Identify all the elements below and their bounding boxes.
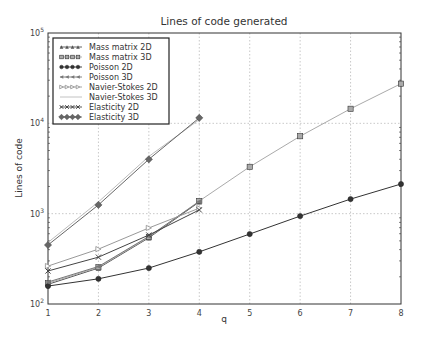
y-tick-label: 102 [30,297,44,309]
legend-label: Mass matrix 2D [89,43,152,52]
legend-label: Navier-Stokes 2D [89,83,158,92]
series-line [48,210,199,271]
series-poisson-3d [45,199,201,285]
series-elasticity-3d [44,114,202,248]
legend-label: Elasticity 3D [89,113,139,122]
x-tick-label: 3 [146,309,151,318]
series-line [48,202,199,282]
y-axis-label: Lines of code [14,138,24,198]
x-tick-label: 5 [247,309,252,318]
legend-label: Poisson 2D [89,63,133,72]
series-navier-stokes-2d [45,206,201,269]
x-axis-label: q [221,314,227,324]
x-tick-label: 2 [96,309,101,318]
series-line [48,118,199,245]
x-tick-label: 4 [197,309,202,318]
x-tick-label: 6 [298,309,303,318]
legend-label: Navier-Stokes 3D [89,93,158,102]
y-tick-label: 104 [30,116,44,128]
legend: Mass matrix 2DMass matrix 3DPoisson 2DPo… [53,38,169,124]
chart-title: Lines of code generated [160,15,287,27]
series-poisson-2d [45,181,403,288]
y-tick-label: 105 [30,26,44,38]
x-tick-label: 7 [348,309,353,318]
series-line [48,120,199,243]
series-line [48,202,199,284]
chart: Lines of code generated 12345678 1021031… [0,0,423,339]
y-tick-label: 103 [30,207,44,219]
legend-label: Mass matrix 3D [89,53,152,62]
series-line [48,208,199,266]
legend-label: Poisson 3D [89,73,133,82]
legend-label: Elasticity 2D [89,103,139,112]
x-tick-label: 1 [45,309,50,318]
x-tick-label: 8 [398,309,403,318]
series-navier-stokes-3d [48,120,199,243]
